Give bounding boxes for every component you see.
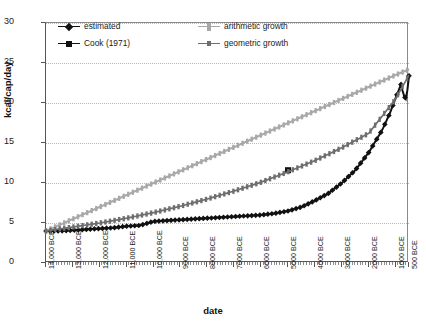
x-minor-tick (249, 262, 250, 265)
x-minor-tick (365, 262, 366, 265)
legend-marker-square-icon (58, 39, 80, 48)
x-minor-tick (166, 262, 167, 265)
x-minor-tick (311, 262, 312, 265)
x-minor-tick (169, 262, 170, 265)
x-minor-tick (144, 262, 145, 265)
x-tick-mark (314, 262, 315, 267)
x-minor-tick (177, 262, 178, 265)
x-minor-tick (354, 262, 355, 265)
x-minor-tick (335, 262, 336, 265)
x-minor-tick (252, 262, 253, 265)
x-minor-tick (271, 262, 272, 265)
chart-legend: estimated Cook (1971) arithmetic growth … (58, 22, 324, 56)
x-tick-mark (260, 262, 261, 267)
x-minor-tick (300, 262, 301, 265)
x-minor-tick (112, 262, 113, 265)
series-estimated (43, 73, 412, 234)
x-minor-tick (244, 262, 245, 265)
x-minor-tick (58, 262, 59, 265)
x-tick-mark (126, 262, 127, 267)
x-minor-tick (279, 262, 280, 265)
x-minor-tick (88, 262, 89, 265)
y-tick-label: 10 (0, 177, 14, 186)
x-minor-tick (338, 262, 339, 265)
legend-marker-diamond-icon (58, 22, 80, 31)
x-minor-tick (64, 262, 65, 265)
x-minor-tick (276, 262, 277, 265)
x-minor-tick (284, 262, 285, 265)
x-tick-label: 5000 BCE (290, 236, 297, 269)
x-minor-tick (274, 262, 275, 265)
y-tick-label: 15 (0, 137, 14, 146)
x-minor-tick (147, 262, 148, 265)
x-axis-title: date (0, 305, 426, 316)
x-minor-tick (115, 262, 116, 265)
x-minor-tick (120, 262, 121, 265)
x-minor-tick (257, 262, 258, 265)
x-minor-tick (333, 262, 334, 265)
x-minor-tick (118, 262, 119, 265)
x-tick-label: 14,000 BCE (48, 230, 55, 269)
x-tick-label: 6000 BCE (263, 236, 270, 269)
x-minor-tick (190, 262, 191, 265)
y-tick-label: 5 (0, 217, 14, 226)
x-minor-tick (231, 262, 232, 265)
x-minor-tick (306, 262, 307, 265)
x-minor-tick (61, 262, 62, 265)
x-minor-tick (220, 262, 221, 265)
x-minor-tick (174, 262, 175, 265)
x-tick-label: 12,000 BCE (102, 230, 109, 269)
x-minor-tick (196, 262, 197, 265)
x-minor-tick (123, 262, 124, 265)
x-tick-label: 10,000 BCE (156, 230, 163, 269)
x-minor-tick (150, 262, 151, 265)
x-minor-tick (222, 262, 223, 265)
x-tick-mark (99, 262, 100, 267)
x-minor-tick (91, 262, 92, 265)
x-minor-tick (384, 262, 385, 265)
series-geometric-growth (45, 75, 409, 234)
x-tick-mark (368, 262, 369, 267)
x-minor-tick (228, 262, 229, 265)
x-minor-tick (357, 262, 358, 265)
legend-label: Cook (1971) (84, 39, 130, 48)
x-minor-tick (247, 262, 248, 265)
x-tick-label: 1000 BCE (398, 236, 405, 269)
x-minor-tick (171, 262, 172, 265)
plot-area (45, 22, 408, 262)
x-minor-tick (381, 262, 382, 265)
x-minor-tick (142, 262, 143, 265)
x-tick-mark (341, 262, 342, 267)
x-minor-tick (362, 262, 363, 265)
x-tick-label: 9000 BCE (182, 236, 189, 269)
x-minor-tick (392, 262, 393, 265)
y-tick-label: 25 (0, 57, 14, 66)
x-minor-tick (204, 262, 205, 265)
x-tick-label: 7000 BCE (236, 236, 243, 269)
x-minor-tick (198, 262, 199, 265)
x-tick-mark (395, 262, 396, 267)
chart-container: kcal/cap/day 051015202530 14,000 BCE13,0… (0, 0, 426, 329)
x-minor-tick (85, 262, 86, 265)
y-tick-label: 20 (0, 97, 14, 106)
x-tick-label: 8000 BCE (209, 236, 216, 269)
x-minor-tick (225, 262, 226, 265)
x-tick-label: 500 BCE (411, 240, 418, 269)
x-minor-tick (69, 262, 70, 265)
x-minor-tick (217, 262, 218, 265)
legend-label: geometric growth (224, 39, 288, 48)
x-tick-label: 4000 BCE (317, 236, 324, 269)
x-minor-tick (327, 262, 328, 265)
x-minor-tick (193, 262, 194, 265)
x-minor-tick (93, 262, 94, 265)
legend-marker-tick-icon (198, 22, 220, 31)
series-arithmetic-growth (45, 68, 409, 234)
x-tick-label: 3000 BCE (344, 236, 351, 269)
x-minor-tick (303, 262, 304, 265)
x-minor-tick (201, 262, 202, 265)
y-axis-title: kcal/cap/day (2, 61, 13, 118)
legend-label: arithmetic growth (224, 22, 288, 31)
x-minor-tick (309, 262, 310, 265)
x-tick-mark (408, 262, 409, 267)
x-tick-label: 11,000 BCE (129, 231, 136, 269)
